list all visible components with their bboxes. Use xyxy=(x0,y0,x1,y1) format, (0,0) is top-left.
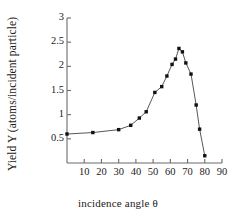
data-series-markers xyxy=(65,47,206,158)
data-point xyxy=(203,154,206,157)
data-point xyxy=(117,128,120,131)
data-point xyxy=(138,116,141,119)
data-point xyxy=(184,61,187,64)
data-point xyxy=(181,50,184,53)
x-tick-marks xyxy=(84,159,222,163)
data-point xyxy=(145,110,148,113)
data-point xyxy=(198,127,201,130)
y-tick-marks xyxy=(67,18,71,139)
data-point xyxy=(174,57,177,60)
y-tick-label: 1.5 xyxy=(20,84,64,95)
data-point xyxy=(177,47,180,50)
y-tick-label: 1 xyxy=(20,108,64,119)
data-point xyxy=(129,124,132,127)
data-point xyxy=(91,131,94,134)
figure: Yield Y (atoms/incident particle) 0.511.… xyxy=(0,0,236,220)
x-axis-label: incidence angle θ xyxy=(0,197,236,209)
data-point xyxy=(160,85,163,88)
y-tick-label: 3 xyxy=(20,11,64,22)
y-tick-label: 0.5 xyxy=(20,132,64,143)
data-point xyxy=(189,72,192,75)
y-tick-label: 2 xyxy=(20,59,64,70)
data-point xyxy=(194,103,197,106)
x-tick-label: 90 xyxy=(212,166,232,177)
data-point xyxy=(170,63,173,66)
y-tick-label: 2.5 xyxy=(20,35,64,46)
data-point xyxy=(153,91,156,94)
data-point xyxy=(65,132,68,135)
data-series-line xyxy=(67,48,205,155)
data-point xyxy=(165,74,168,77)
